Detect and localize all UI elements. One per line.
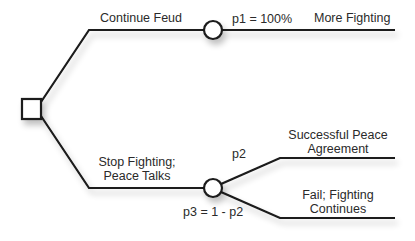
outcome-label-successful-peace-line2: Agreement bbox=[283, 142, 393, 156]
probability-label-p3: p3 = 1 - p2 bbox=[183, 205, 243, 219]
outcome-label-fail-fighting-line2: Continues bbox=[283, 202, 393, 216]
branch-continue-feud-line bbox=[41, 30, 204, 102]
probability-label-p1: p1 = 100% bbox=[232, 12, 292, 26]
outcome-label-more-fighting: More Fighting bbox=[314, 11, 390, 25]
branch-label-continue-feud: Continue Feud bbox=[100, 11, 182, 25]
branch-label-stop-fighting-line1: Stop Fighting; bbox=[92, 155, 182, 169]
branch-label-stop-fighting: Stop Fighting; Peace Talks bbox=[92, 155, 182, 183]
decision-node-square bbox=[22, 99, 41, 119]
chance-node-bottom bbox=[204, 179, 222, 197]
chance-node-top bbox=[204, 21, 222, 39]
outcome-label-fail-fighting: Fail; Fighting Continues bbox=[283, 188, 393, 216]
outcome-label-successful-peace: Successful Peace Agreement bbox=[283, 128, 393, 156]
probability-label-p2: p2 bbox=[232, 147, 246, 161]
outcome-successful-peace-line bbox=[221, 158, 395, 184]
branch-label-stop-fighting-line2: Peace Talks bbox=[92, 169, 182, 183]
outcome-label-successful-peace-line1: Successful Peace bbox=[283, 128, 393, 142]
outcome-label-fail-fighting-line1: Fail; Fighting bbox=[283, 188, 393, 202]
